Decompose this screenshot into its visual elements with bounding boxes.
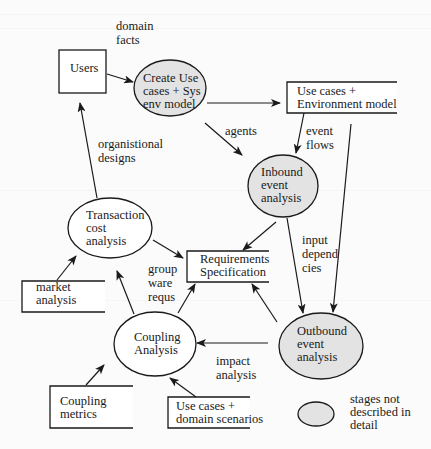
arrow-outbound-to-requirements bbox=[252, 284, 277, 322]
arrow-market-to-transaction bbox=[57, 256, 76, 280]
node-label: CouplingAnalysis bbox=[134, 330, 181, 357]
node-create-use-cases: Create Usecases + Sysenv model bbox=[134, 60, 206, 116]
arrow-input-dependencies bbox=[287, 218, 303, 313]
node-transaction: Transactioncostanalysis bbox=[68, 198, 152, 258]
legend-shaded-ellipse-icon bbox=[298, 402, 334, 426]
arrow-users-to-create bbox=[107, 74, 133, 82]
node-label: marketanalysis bbox=[36, 280, 76, 307]
arrow-event-flows bbox=[296, 113, 304, 153]
edge-label-event-flows: eventflows bbox=[306, 124, 334, 152]
arrow-transaction-to-requirements bbox=[153, 240, 183, 258]
node-inbound: Inboundeventanalysis bbox=[248, 155, 318, 217]
node-label: Create Usecases + Sysenv model bbox=[143, 71, 201, 111]
node-requirements: RequirementsSpecification bbox=[187, 251, 270, 282]
stage-ellipse bbox=[68, 198, 152, 258]
edge-label-impact-analysis: impactanalysis bbox=[216, 354, 256, 382]
edge-label-organistional-designs: organistionaldesigns bbox=[98, 137, 164, 165]
node-market: marketanalysis bbox=[22, 280, 105, 312]
process-diagram: UsersCreate Usecases + Sysenv modelUse c… bbox=[0, 0, 431, 449]
arrow-coupling-to-transaction bbox=[117, 271, 134, 314]
legend-text: stages notdescribed indetail bbox=[350, 392, 411, 432]
arrow-organistional-designs bbox=[80, 103, 97, 198]
edge-label-agents: agents bbox=[225, 124, 257, 138]
legend: stages notdescribed indetail bbox=[298, 392, 411, 432]
node-label: Users bbox=[70, 61, 99, 75]
node-label: RequirementsSpecification bbox=[200, 252, 270, 279]
arrow-envmodel-to-outbound bbox=[333, 124, 351, 312]
node-use-cases-domain: Use cases +domain scenarios bbox=[168, 397, 263, 428]
arrow-domain-to-coupling bbox=[170, 378, 196, 397]
edge-label-input-dependencies: inputdependcies bbox=[302, 233, 339, 275]
arrow-groupware-requs bbox=[178, 284, 195, 313]
arrow-metrics-to-coupling bbox=[86, 365, 104, 385]
node-users: Users bbox=[59, 50, 106, 93]
edge-label-domain-facts: domainfacts bbox=[116, 19, 154, 47]
node-use-cases-env-model: Use cases +Environment model bbox=[287, 82, 397, 113]
nodes-layer: UsersCreate Usecases + Sysenv modelUse c… bbox=[22, 50, 397, 428]
edge-label-group-ware-requs: groupwarerequs bbox=[148, 262, 177, 304]
node-coupling-metrics: Couplingmetrics bbox=[50, 386, 133, 428]
arrow-inbound-to-requirements bbox=[243, 222, 276, 250]
node-coupling: CouplingAnalysis bbox=[114, 312, 196, 376]
node-label: Use cases +domain scenarios bbox=[176, 399, 263, 426]
node-outbound: Outboundeventanalysis bbox=[279, 313, 363, 379]
